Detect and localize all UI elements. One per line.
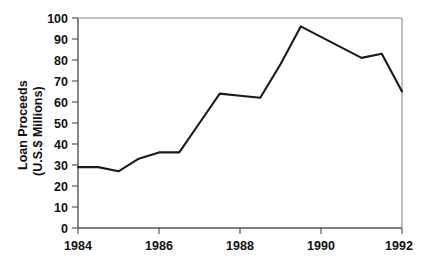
- y-tick-label: 60: [54, 96, 68, 110]
- x-tick-label: 1986: [145, 239, 173, 253]
- plot-frame: [78, 18, 402, 228]
- x-axis-ticks: [78, 228, 402, 234]
- chart-canvas: 0 10 20 30 40 50 60 70 80 90 100 1984 19…: [0, 0, 424, 271]
- x-tick-label: 1984: [64, 239, 92, 253]
- y-axis-tick-labels: 0 10 20 30 40 50 60 70 80 90 100: [47, 12, 68, 236]
- y-tick-label: 70: [54, 75, 68, 89]
- y-axis-title: Loan Proceeds (U.S.$ Millions): [16, 80, 45, 176]
- y-tick-label: 40: [54, 138, 68, 152]
- y-tick-label: 90: [54, 33, 68, 47]
- y-tick-label: 10: [54, 201, 68, 215]
- y-tick-label: 30: [54, 159, 68, 173]
- line-chart: 0 10 20 30 40 50 60 70 80 90 100 1984 19…: [0, 0, 424, 271]
- y-tick-label: 100: [47, 12, 68, 26]
- y-axis-title-line-1: Loan Proceeds: [16, 80, 30, 170]
- y-axis-ticks: [72, 18, 78, 228]
- x-tick-label: 1990: [307, 239, 335, 253]
- x-axis-tick-labels: 1984 1986 1988 1990 1992: [64, 239, 413, 253]
- y-tick-label: 0: [61, 222, 68, 236]
- y-axis-title-line-2: (U.S.$ Millions): [31, 86, 45, 176]
- y-tick-label: 80: [54, 54, 68, 68]
- data-line-loan-proceeds: [78, 26, 402, 171]
- x-tick-label: 1988: [226, 239, 254, 253]
- y-tick-label: 50: [54, 117, 68, 131]
- y-tick-label: 20: [54, 180, 68, 194]
- x-tick-label: 1992: [385, 239, 413, 253]
